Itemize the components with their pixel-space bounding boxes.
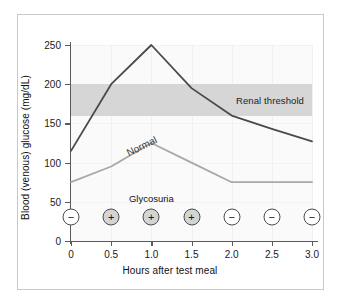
chart-figure: Renal threshold 050100150200250 00.51.01… [0, 0, 340, 304]
glycosuria-marker-negative: − [304, 209, 321, 226]
glycosuria-marker-positive: + [183, 209, 200, 226]
y-axis-title: Blood (venous) glucose (mg/dL) [20, 43, 31, 253]
x-axis-tick-label: 2.5 [265, 249, 279, 260]
glycosuria-title: Glycosuria [129, 193, 174, 204]
gridline-horizontal [71, 123, 312, 124]
x-axis-line [70, 241, 318, 242]
x-axis-tick [312, 241, 313, 246]
y-axis-tick-label: 200 [44, 79, 61, 90]
glycosuria-sign: − [228, 211, 234, 222]
y-axis-tick [65, 123, 71, 124]
glycosuria-marker-negative: − [63, 209, 80, 226]
x-axis-tick-label: 2.0 [225, 249, 239, 260]
x-axis-tick-label: 1.0 [144, 249, 158, 260]
y-axis-tick-label: 150 [44, 118, 61, 129]
x-axis-tick-label: 3.0 [305, 249, 319, 260]
glycosuria-marker-positive: + [143, 209, 160, 226]
x-axis-tick [111, 241, 112, 246]
y-axis-tick-label: 50 [50, 196, 61, 207]
x-axis-tick-label: 1.5 [185, 249, 199, 260]
x-axis-tick [71, 241, 72, 246]
x-axis-tick-label: 0 [68, 249, 74, 260]
gridline-horizontal [71, 45, 312, 46]
glycosuria-sign: + [148, 211, 154, 222]
x-axis-tick [151, 241, 152, 246]
x-axis-title: Hours after test meal [0, 265, 340, 276]
y-axis-tick-label: 0 [55, 236, 61, 247]
y-axis-tick [65, 163, 71, 164]
glycosuria-sign: − [309, 211, 315, 222]
gridline-horizontal [71, 163, 312, 164]
renal-threshold-label: Renal threshold [236, 94, 304, 105]
glycosuria-marker-negative: − [263, 209, 280, 226]
glycosuria-sign: + [188, 211, 194, 222]
y-axis-tick [65, 202, 71, 203]
y-axis-tick-label: 100 [44, 157, 61, 168]
y-axis-tick [65, 84, 71, 85]
glycosuria-sign: − [68, 211, 74, 222]
y-axis-tick-label: 250 [44, 40, 61, 51]
x-axis-tick [272, 241, 273, 246]
gridline-horizontal [71, 202, 312, 203]
x-axis-tick-label: 0.5 [104, 249, 118, 260]
glycosuria-marker-negative: − [223, 209, 240, 226]
glycosuria-sign: + [108, 211, 114, 222]
x-axis-tick [232, 241, 233, 246]
glycosuria-sign: − [269, 211, 275, 222]
renal-threshold-band: Renal threshold [71, 84, 312, 115]
y-axis-tick [65, 45, 71, 46]
glycosuria-marker-positive: + [103, 209, 120, 226]
x-axis-tick [192, 241, 193, 246]
